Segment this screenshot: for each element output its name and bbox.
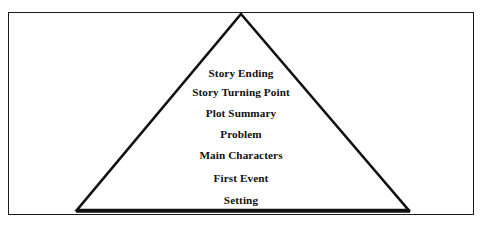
plot-label-first-event: First Event <box>0 172 482 184</box>
plot-label-setting: Setting <box>0 194 482 206</box>
plot-element-label-stack: Story Ending Story Turning Point Plot Su… <box>0 0 482 225</box>
plot-label-story-turning-point: Story Turning Point <box>0 86 482 98</box>
plot-label-story-ending: Story Ending <box>0 67 482 79</box>
plot-label-plot-summary: Plot Summary <box>0 107 482 119</box>
story-plot-triangle-figure: Story Ending Story Turning Point Plot Su… <box>0 0 482 225</box>
plot-label-main-characters: Main Characters <box>0 149 482 161</box>
plot-label-problem: Problem <box>0 128 482 140</box>
